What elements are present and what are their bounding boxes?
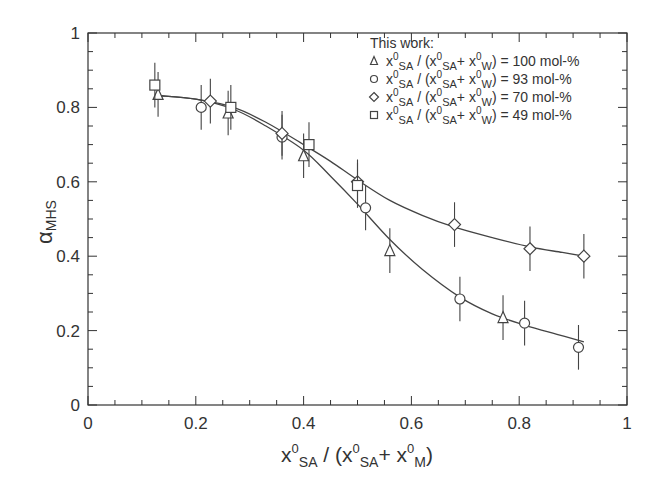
x-tick-label: 1 bbox=[622, 414, 631, 433]
y-tick-label: 0.2 bbox=[56, 322, 80, 341]
x-axis-title-x2: x bbox=[342, 443, 353, 466]
circle-marker-icon bbox=[455, 294, 465, 304]
y-axis-title: αMHS bbox=[32, 200, 59, 244]
x-axis-title-sup2: 0 bbox=[352, 441, 359, 456]
x-axis-title-sub3: M bbox=[414, 454, 426, 470]
x-axis-title-plus: + bbox=[378, 443, 396, 466]
x-tick-label: 0.6 bbox=[400, 414, 424, 433]
x-axis-title-slash: / ( bbox=[317, 443, 342, 466]
y-tick-label: 0.8 bbox=[56, 98, 80, 117]
x-axis-title-sub1: SA bbox=[299, 454, 318, 470]
circle-marker-icon bbox=[361, 203, 371, 213]
x-axis-title-close: ) bbox=[426, 443, 433, 466]
diamond-marker-icon bbox=[524, 243, 536, 255]
y-tick-label: 0.6 bbox=[56, 173, 80, 192]
x-axis-title: x0SA / (x0SA+ x0M) bbox=[281, 441, 433, 470]
series-circle bbox=[196, 85, 583, 370]
x-tick-label: 0 bbox=[83, 414, 92, 433]
triangle-marker-icon bbox=[371, 57, 378, 65]
x-axis-title-x3: x bbox=[397, 443, 408, 466]
y-tick-label: 1 bbox=[71, 24, 80, 43]
triangle-marker-icon bbox=[299, 150, 309, 161]
chart: 00.20.40.60.8100.20.40.60.81 αMHS x0SA /… bbox=[0, 0, 651, 485]
legend-row: x0SA / (x0SA+ x0W) = 70 mol-% bbox=[370, 87, 572, 108]
series-square bbox=[150, 63, 363, 208]
circle-marker-icon bbox=[573, 342, 583, 352]
circle-marker-icon bbox=[520, 318, 530, 328]
square-marker-icon bbox=[226, 102, 236, 112]
legend-row: x0SA / (x0SA+ x0W) = 93 mol-% bbox=[371, 69, 572, 90]
y-tick-label: 0 bbox=[71, 396, 80, 415]
legend-title: This work: bbox=[370, 35, 434, 51]
circle-marker-icon bbox=[371, 76, 378, 83]
y-axis-alpha: α bbox=[32, 231, 57, 244]
fit-curve bbox=[158, 95, 584, 341]
x-tick-label: 0.4 bbox=[292, 414, 316, 433]
triangle-marker-icon bbox=[385, 245, 395, 256]
legend: This work: x0SA / (x0SA+ x0W) = 100 mol-… bbox=[370, 35, 580, 126]
legend-rows: x0SA / (x0SA+ x0W) = 100 mol-%x0SA / (x0… bbox=[370, 51, 580, 126]
legend-label: x0SA / (x0SA+ x0W) = 100 mol-% bbox=[386, 51, 579, 72]
x-axis-title-x1: x bbox=[281, 443, 292, 466]
x-axis-title-sub2: SA bbox=[360, 454, 379, 470]
x-axis-title-sup1: 0 bbox=[292, 441, 299, 456]
square-marker-icon bbox=[371, 112, 378, 119]
square-marker-icon bbox=[150, 80, 160, 90]
y-axis-sub: MHS bbox=[43, 200, 59, 231]
x-axis-title-sup3: 0 bbox=[407, 441, 414, 456]
diamond-marker-icon bbox=[370, 93, 379, 102]
fit-curves bbox=[158, 95, 584, 341]
legend-row: x0SA / (x0SA+ x0W) = 49 mol-% bbox=[371, 105, 572, 126]
square-marker-icon bbox=[304, 140, 314, 150]
diamond-marker-icon bbox=[578, 250, 590, 262]
square-marker-icon bbox=[353, 181, 363, 191]
x-tick-label: 0.8 bbox=[507, 414, 531, 433]
circle-marker-icon bbox=[196, 102, 206, 112]
legend-label: x0SA / (x0SA+ x0W) = 49 mol-% bbox=[386, 105, 572, 126]
x-tick-label: 0.2 bbox=[184, 414, 208, 433]
y-tick-label: 0.4 bbox=[56, 247, 80, 266]
